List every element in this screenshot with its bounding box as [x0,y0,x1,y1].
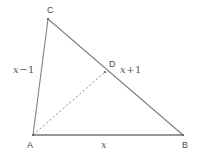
vertex-label-a: A [27,141,33,150]
point-d-marker [104,71,106,73]
side-db-operator: + [126,64,135,75]
side-length-label-ac: x−1 [13,65,34,75]
segment-ad-dashed [33,72,105,135]
geometry-figure: C D A B x−1 x+1 x [0,0,197,156]
segment-ac [33,19,48,135]
vertex-label-c: C [47,6,54,15]
side-db-number: 1 [135,64,141,75]
point-a-marker [32,134,34,136]
side-ac-number: 1 [28,64,34,75]
side-length-label-ab: x [101,140,107,150]
vertex-label-b: B [182,141,188,150]
point-b-marker [182,134,184,136]
side-ac-variable: x [13,64,19,75]
point-c-marker [47,18,49,20]
geometry-canvas [0,0,197,156]
side-ac-operator: − [19,64,28,75]
segment-cb [48,19,183,135]
vertex-label-d: D [109,60,116,69]
side-length-label-db: x+1 [120,65,141,75]
side-db-variable: x [120,64,126,75]
